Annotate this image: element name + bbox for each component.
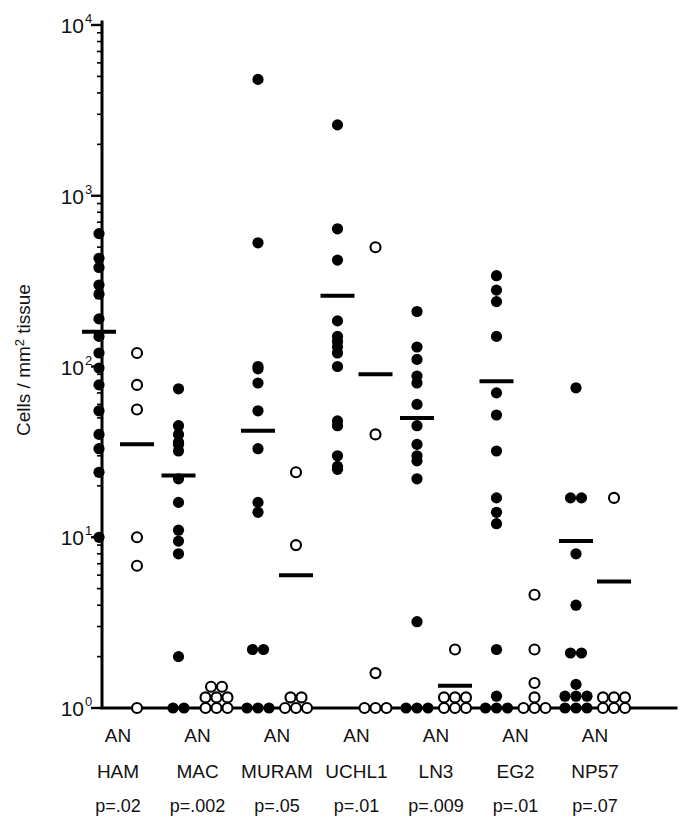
data-point-muram-a <box>247 644 258 655</box>
data-point-ln3-a <box>411 341 422 352</box>
y-axis-title-text: Cells / mm2 tissue <box>12 284 34 436</box>
data-point-ham-n <box>132 405 142 415</box>
data-point-ham-n <box>132 561 142 571</box>
data-point-eg2-a <box>491 644 502 655</box>
data-point-ln3-n <box>450 703 460 713</box>
data-point-mac-a <box>173 497 184 508</box>
data-point-ham-a <box>93 429 104 440</box>
group-name-label-ham: HAM <box>97 761 139 782</box>
group-name-label-eg2: EG2 <box>496 761 534 782</box>
data-point-ln3-a <box>411 377 422 388</box>
data-point-ln3-a <box>411 616 422 627</box>
data-point-np57-n <box>620 692 630 702</box>
group-name-label-ln3: LN3 <box>419 761 454 782</box>
data-point-eg2-a <box>491 387 502 398</box>
data-point-np57-a <box>570 382 581 393</box>
group-condition-label-mac: AN <box>184 725 210 746</box>
y-tick-exponent: 2 <box>85 353 92 368</box>
data-point-eg2-a <box>502 702 513 713</box>
data-point-eg2-a <box>491 702 502 713</box>
data-point-muram-a <box>263 702 274 713</box>
data-point-uchl1-n <box>360 703 370 713</box>
data-point-ln3-n <box>461 703 471 713</box>
data-point-uchl1-n <box>371 703 381 713</box>
y-tick-label: 10 <box>61 697 84 720</box>
data-point-eg2-a <box>491 518 502 529</box>
data-point-ham-a <box>93 228 104 239</box>
data-point-ham-a <box>93 347 104 358</box>
data-point-eg2-a <box>491 285 502 296</box>
data-point-mac-n <box>212 692 222 702</box>
data-point-ham-a <box>93 262 104 273</box>
group-ham <box>82 228 154 713</box>
data-point-mac-a <box>173 536 184 547</box>
data-point-eg2-n <box>530 692 540 702</box>
data-point-ln3-a <box>411 399 422 410</box>
group-name-label-mac: MAC <box>176 761 218 782</box>
data-point-np57-a <box>570 691 581 702</box>
y-tick-exponent: 3 <box>85 182 92 197</box>
data-point-ham-n <box>132 703 142 713</box>
data-point-mac-a <box>173 525 184 536</box>
data-point-ham-a <box>93 362 104 373</box>
data-point-uchl1-a <box>332 223 343 234</box>
data-point-ln3-n <box>450 692 460 702</box>
scatter-plot-figure: 104103102101100Cells / mm2 tissueANHAMp=… <box>0 0 680 836</box>
data-point-eg2-a <box>491 691 502 702</box>
data-point-np57-a <box>570 548 581 559</box>
group-name-label-uchl1: UCHL1 <box>325 761 387 782</box>
data-point-mac-n <box>223 703 233 713</box>
data-point-uchl1-a <box>332 347 343 358</box>
data-point-muram-a <box>252 74 263 85</box>
data-point-uchl1-n <box>371 668 381 678</box>
y-tick-label: 10 <box>61 526 84 549</box>
data-point-mac-a <box>178 702 189 713</box>
data-point-mac-n <box>206 682 216 692</box>
data-point-uchl1-a <box>332 361 343 372</box>
data-point-np57-n <box>609 493 619 503</box>
data-point-mac-a <box>173 383 184 394</box>
group-mac <box>162 383 233 713</box>
data-point-ham-a <box>93 289 104 300</box>
data-point-muram-a <box>252 507 263 518</box>
group-eg2 <box>480 270 551 714</box>
data-point-ln3-a <box>400 702 411 713</box>
data-point-np57-a <box>565 492 576 503</box>
data-point-muram-a <box>252 363 263 374</box>
data-point-ham-a <box>93 405 104 416</box>
data-point-ln3-a <box>411 455 422 466</box>
data-point-ln3-a <box>411 702 422 713</box>
group-pvalue-label-uchl1: p=.01 <box>334 796 380 816</box>
data-point-eg2-a <box>491 507 502 518</box>
data-point-eg2-a <box>491 296 502 307</box>
y-axis-title: Cells / mm2 tissue <box>12 284 34 436</box>
data-point-np57-a <box>559 702 570 713</box>
data-point-mac-n <box>212 703 222 713</box>
y-tick-label: 10 <box>61 185 84 208</box>
data-point-ln3-a <box>422 702 433 713</box>
data-point-uchl1-a <box>332 255 343 266</box>
data-point-np57-n <box>609 703 619 713</box>
data-point-uchl1-n <box>371 429 381 439</box>
data-point-muram-n <box>291 540 301 550</box>
data-point-uchl1-a <box>332 450 343 461</box>
group-pvalue-label-eg2: p=.01 <box>493 796 539 816</box>
data-point-uchl1-n <box>382 703 392 713</box>
data-point-eg2-a <box>480 702 491 713</box>
group-condition-label-eg2: AN <box>502 725 528 746</box>
group-name-label-muram: MURAM <box>241 761 313 782</box>
group-name-label-np57: NP57 <box>571 761 619 782</box>
axis-lines <box>102 22 676 708</box>
data-point-eg2-n <box>530 590 540 600</box>
data-point-muram-n <box>286 692 296 702</box>
data-point-ln3-n <box>439 692 449 702</box>
data-point-np57-a <box>565 647 576 658</box>
data-point-ln3-n <box>461 692 471 702</box>
group-pvalue-label-muram: p=.05 <box>254 796 300 816</box>
plot-canvas: 104103102101100Cells / mm2 tissueANHAMp=… <box>0 0 680 836</box>
data-point-np57-n <box>620 703 630 713</box>
group-condition-label-muram: AN <box>264 725 290 746</box>
group-pvalue-label-np57: p=.07 <box>572 796 618 816</box>
y-tick-exponent: 0 <box>85 694 92 709</box>
data-point-ln3-a <box>411 439 422 450</box>
